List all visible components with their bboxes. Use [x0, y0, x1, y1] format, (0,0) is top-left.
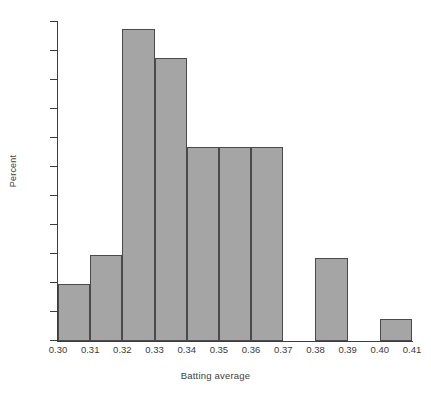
histogram-bar: [122, 29, 154, 341]
y-tick-mark: [50, 282, 57, 283]
y-tick-mark: [50, 108, 57, 109]
plot-area: [58, 22, 412, 341]
histogram-bar: [155, 58, 187, 341]
y-tick-mark: [50, 137, 57, 138]
histogram-bar: [219, 147, 251, 341]
y-tick-mark: [50, 79, 57, 80]
x-tick-label: 0.37: [265, 344, 301, 355]
x-tick-label: 0.36: [233, 344, 269, 355]
x-tick-label: 0.31: [72, 344, 108, 355]
histogram-bar: [315, 258, 347, 341]
y-axis-title: Percent: [4, 0, 22, 341]
y-tick-mark: [50, 253, 57, 254]
y-tick-mark: [50, 21, 57, 22]
x-tick-label: 0.30: [40, 344, 76, 355]
x-tick-label: 0.41: [394, 344, 430, 355]
histogram-bar: [251, 147, 283, 341]
x-axis-spine: [57, 341, 413, 342]
x-tick-label: 0.38: [297, 344, 333, 355]
x-tick-label: 0.39: [330, 344, 366, 355]
histogram-bar: [187, 147, 219, 341]
histogram-bar: [380, 319, 412, 341]
y-tick-mark: [50, 224, 57, 225]
histogram-bar: [90, 255, 122, 341]
histogram-bar: [58, 284, 90, 341]
y-tick-mark: [50, 50, 57, 51]
y-tick-mark: [50, 195, 57, 196]
y-tick-mark: [50, 311, 57, 312]
x-tick-label: 0.34: [169, 344, 205, 355]
y-tick-mark: [50, 340, 57, 341]
x-tick-label: 0.40: [362, 344, 398, 355]
x-tick-label: 0.35: [201, 344, 237, 355]
x-axis-title: Batting average: [0, 370, 431, 381]
y-axis-title-text: Percent: [8, 154, 18, 186]
histogram-figure: Percent 00.020.040.060.080.100.120.140.1…: [0, 0, 431, 395]
y-tick-mark: [50, 166, 57, 167]
x-tick-label: 0.32: [104, 344, 140, 355]
x-tick-label: 0.33: [137, 344, 173, 355]
